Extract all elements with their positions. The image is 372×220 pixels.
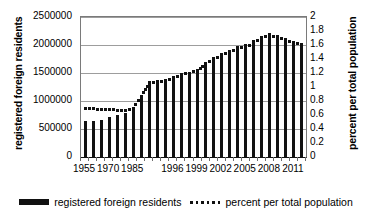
y-axis-right-tick-label: 0.8 xyxy=(310,95,324,105)
line-dot xyxy=(220,54,223,57)
x-axis-tick xyxy=(289,157,290,161)
line-dot xyxy=(256,39,259,42)
line-dot xyxy=(288,40,291,43)
line-dot xyxy=(180,73,183,76)
x-axis-tick xyxy=(201,157,202,161)
line-dot xyxy=(137,99,140,102)
legend-label-bars: registered foreign residents xyxy=(54,196,181,208)
y-axis-left-tick-label: 1000000 xyxy=(33,95,72,105)
line-dot xyxy=(142,91,145,94)
line-dot xyxy=(88,107,91,110)
x-axis-tick xyxy=(136,157,137,161)
line-dot xyxy=(108,108,111,111)
line-dot xyxy=(260,37,263,40)
bar xyxy=(100,120,103,157)
y-axis-right-title: percent per total population xyxy=(347,13,358,153)
y-axis-left-tick-label: 2500000 xyxy=(33,11,72,21)
line-dot xyxy=(100,108,103,111)
bar xyxy=(84,121,87,157)
bar xyxy=(260,36,263,157)
line-dot xyxy=(132,107,135,110)
x-axis-tick xyxy=(233,157,234,161)
x-axis-tick xyxy=(257,157,258,161)
plot-area xyxy=(80,16,307,158)
bar xyxy=(220,53,223,157)
bar xyxy=(292,41,295,157)
x-axis-tick-label: 1999 xyxy=(185,163,207,175)
bar xyxy=(300,43,303,157)
x-axis-tick xyxy=(128,157,129,161)
line-dot xyxy=(276,36,279,39)
bar xyxy=(212,57,215,157)
line-dot xyxy=(232,49,235,52)
line-dot xyxy=(112,108,115,111)
y-axis-left-tick-label: 0 xyxy=(66,151,72,161)
bar xyxy=(284,38,287,158)
bar xyxy=(228,50,231,157)
x-axis-tick-label: 2002 xyxy=(210,163,232,175)
line-dot xyxy=(248,44,251,47)
line-dot xyxy=(124,109,127,112)
x-axis-tick xyxy=(241,157,242,161)
x-axis-ticks xyxy=(80,157,305,162)
x-axis-tick xyxy=(176,157,177,161)
series-layer xyxy=(81,17,306,157)
legend-item-bars: registered foreign residents xyxy=(19,196,181,208)
x-axis-tick xyxy=(193,157,194,161)
bar xyxy=(132,109,135,157)
y-axis-right-tick-label: 0.6 xyxy=(310,109,324,119)
line-dot xyxy=(280,37,283,40)
line-dot xyxy=(120,109,123,112)
line-dot xyxy=(156,80,159,83)
line-dot xyxy=(300,44,303,47)
chart-container: registered foreign residents percent per… xyxy=(0,0,372,220)
line-dot xyxy=(84,107,87,110)
x-axis-tick xyxy=(104,157,105,161)
x-axis-tick xyxy=(88,157,89,161)
line-dot xyxy=(292,41,295,44)
line-dot xyxy=(116,109,119,112)
line-dot xyxy=(236,47,239,50)
x-axis-tick-label: 2011 xyxy=(282,163,304,175)
bar xyxy=(108,117,111,157)
x-axis-tick-label: 2008 xyxy=(258,163,280,175)
x-axis-tick-label: 1985 xyxy=(121,163,143,175)
x-axis-tick xyxy=(281,157,282,161)
x-axis-tick xyxy=(152,157,153,161)
bar xyxy=(156,81,159,157)
bar xyxy=(92,121,95,157)
line-dot xyxy=(188,72,191,75)
line-dot xyxy=(92,107,95,110)
x-axis-tick xyxy=(112,157,113,161)
x-axis-tick xyxy=(225,157,226,161)
line-dot xyxy=(144,88,147,91)
legend-label-line: percent per total population xyxy=(225,196,352,208)
x-axis-tick xyxy=(160,157,161,161)
y-axis-right-tick-label: 0.2 xyxy=(310,137,324,147)
x-axis-tick xyxy=(305,157,306,161)
y-axis-right-tick-label: 1.2 xyxy=(310,67,324,77)
line-dot xyxy=(146,85,149,88)
x-axis-tick xyxy=(96,157,97,161)
line-dot xyxy=(216,56,219,59)
y-axis-right-tick-label: 2 xyxy=(310,11,316,21)
y-axis-left-ticks: 05000001000000150000020000002500000 xyxy=(30,0,76,170)
y-axis-left-tick-label: 2000000 xyxy=(33,39,72,49)
line-dot xyxy=(168,78,171,81)
line-dot xyxy=(148,81,151,84)
x-axis-labels: 195519701985199619992002200520082011 xyxy=(80,163,305,177)
bar xyxy=(236,46,239,157)
y-axis-right-ticks: 00.20.40.60.811.21.41.61.82 xyxy=(307,0,333,170)
line-dot xyxy=(264,35,267,38)
line-dot xyxy=(284,39,287,42)
y-axis-left-tick-label: 500000 xyxy=(39,123,72,133)
y-axis-right-tick-label: 1.4 xyxy=(310,53,324,63)
line-dot xyxy=(96,108,99,111)
line-dot xyxy=(160,80,163,83)
x-axis-tick xyxy=(80,157,81,161)
bar xyxy=(276,35,279,157)
bar xyxy=(148,83,151,157)
line-dot xyxy=(176,75,179,78)
y-axis-right-tick-label: 0.4 xyxy=(310,123,324,133)
x-axis-tick xyxy=(217,157,218,161)
